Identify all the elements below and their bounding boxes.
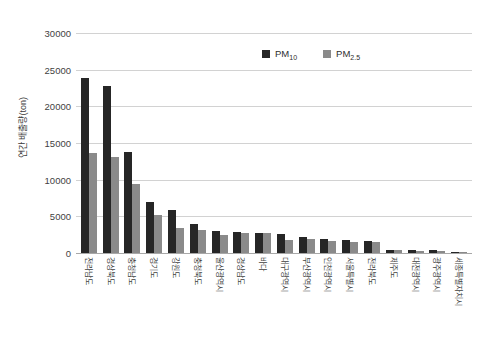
bar-pm10 <box>320 239 328 253</box>
plot-area <box>76 33 472 253</box>
legend-label-pm25-sub: 2.5 <box>350 54 360 61</box>
x-axis-tick-label: 대전광역시 <box>410 257 421 292</box>
x-axis-tick-cell: 충청북도 <box>187 255 209 341</box>
x-axis-tick-cell: 제주도 <box>383 255 405 341</box>
legend-label-pm10-main: PM <box>275 48 289 59</box>
bar-pm25 <box>328 241 336 253</box>
bar-pm25 <box>176 228 184 253</box>
bar-chart: 연간 배출량(ton) 3000025000200001500010000500… <box>0 0 486 343</box>
bar-pm25 <box>198 230 206 253</box>
legend-label-pm10-sub: 10 <box>289 54 297 61</box>
x-axis-tick-cell: 광주광역시 <box>427 255 449 341</box>
bar-pm10 <box>364 241 372 253</box>
chart-legend: PM10 PM2.5 <box>262 48 360 61</box>
bar-pm10 <box>386 250 394 253</box>
x-axis-tick-cell: 경기도 <box>143 255 165 341</box>
x-axis-tick-labels: 전라남도경상북도충청남도경기도강원도충청북도울산광역시경상남도바다대구광역시부산… <box>76 255 472 341</box>
legend-swatch-pm10-icon <box>262 50 270 58</box>
bar-pm10 <box>146 202 154 253</box>
x-axis-tick-cell: 대구광역시 <box>274 255 296 341</box>
y-axis-title-text: 연간 배출량(ton) <box>16 97 29 158</box>
bar-pm25 <box>285 240 293 253</box>
legend-label-pm25-main: PM <box>336 48 350 59</box>
bar-pm10 <box>124 152 132 253</box>
bar-group <box>209 33 231 253</box>
bar-pm10 <box>451 252 459 253</box>
bar-pm25 <box>350 242 358 253</box>
bar-group <box>165 33 187 253</box>
bar-groups <box>76 33 472 253</box>
bar-group <box>318 33 340 253</box>
bar-pm10 <box>429 250 437 253</box>
bar-pm10 <box>233 232 241 253</box>
y-axis-tick-labels: 300002500020000150001000050000 <box>28 26 74 254</box>
x-axis-tick-label: 경기도 <box>149 257 160 278</box>
bar-group <box>448 33 470 253</box>
bar-group <box>252 33 274 253</box>
bar-group <box>296 33 318 253</box>
bar-pm10 <box>103 86 111 253</box>
x-axis-tick-label: 인천광역시 <box>323 257 334 292</box>
bar-pm10 <box>190 224 198 253</box>
x-axis-tick-label: 바다 <box>258 257 269 271</box>
bar-group <box>405 33 427 253</box>
legend-swatch-pm25-icon <box>323 50 331 58</box>
bar-group <box>78 33 100 253</box>
x-axis-tick-label: 경상남도 <box>236 257 247 285</box>
bar-pm25 <box>372 242 380 253</box>
bar-pm25 <box>89 153 97 253</box>
bar-group <box>274 33 296 253</box>
bar-pm25 <box>241 233 249 253</box>
bar-pm25 <box>437 251 445 253</box>
x-axis-tick-cell: 서울특별시 <box>339 255 361 341</box>
bar-pm10 <box>81 78 89 253</box>
x-axis-tick-label: 세종특별자치시 <box>454 257 465 306</box>
y-axis-tick-label: 20000 <box>45 101 71 112</box>
x-axis-tick-label: 대구광역시 <box>279 257 290 292</box>
y-axis-tick-label: 30000 <box>45 28 71 39</box>
x-axis-tick-label: 경상북도 <box>105 257 116 285</box>
bar-pm25 <box>111 157 119 253</box>
x-axis-tick-cell: 세종특별자치시 <box>448 255 470 341</box>
legend-label-pm25: PM2.5 <box>336 48 360 61</box>
bar-group <box>361 33 383 253</box>
x-axis-tick-cell: 울산광역시 <box>209 255 231 341</box>
x-axis-tick-cell: 부산광역시 <box>296 255 318 341</box>
x-axis-tick-cell: 충청남도 <box>122 255 144 341</box>
gridline <box>76 253 472 254</box>
bar-group <box>339 33 361 253</box>
x-axis-tick-label: 제주도 <box>388 257 399 278</box>
x-axis-tick-cell: 경상북도 <box>100 255 122 341</box>
x-axis-tick-label: 부산광역시 <box>301 257 312 292</box>
x-axis-tick-cell: 인천광역시 <box>318 255 340 341</box>
bar-group <box>427 33 449 253</box>
x-axis-tick-cell: 전라남도 <box>78 255 100 341</box>
bar-pm10 <box>277 234 285 253</box>
bar-group <box>383 33 405 253</box>
bar-group <box>230 33 252 253</box>
bar-group <box>143 33 165 253</box>
bar-pm25 <box>394 250 402 253</box>
bar-pm10 <box>168 210 176 253</box>
x-axis-tick-label: 전라북도 <box>367 257 378 285</box>
x-axis-tick-cell: 바다 <box>252 255 274 341</box>
legend-item-pm25: PM2.5 <box>323 48 360 61</box>
x-axis-tick-label: 서울특별시 <box>345 257 356 292</box>
x-axis-tick-label: 광주광역시 <box>432 257 443 292</box>
x-axis-tick-label: 강원도 <box>171 257 182 278</box>
y-axis-tick-label: 15000 <box>45 138 71 149</box>
bar-pm10 <box>212 231 220 253</box>
bar-pm25 <box>263 233 271 253</box>
x-axis-tick-cell: 전라북도 <box>361 255 383 341</box>
bar-pm10 <box>255 233 263 253</box>
bar-pm10 <box>299 237 307 253</box>
y-axis-tick-label: 5000 <box>50 211 71 222</box>
bar-pm25 <box>132 184 140 253</box>
legend-label-pm10: PM10 <box>275 48 297 61</box>
y-axis-tick-label: 25000 <box>45 64 71 75</box>
x-axis-tick-cell: 대전광역시 <box>405 255 427 341</box>
bar-pm10 <box>408 250 416 253</box>
bar-pm25 <box>416 251 424 253</box>
x-axis-tick-cell: 강원도 <box>165 255 187 341</box>
bar-group <box>122 33 144 253</box>
